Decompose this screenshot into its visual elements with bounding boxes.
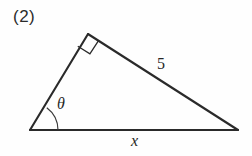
angle-label-theta: θ (57, 96, 65, 112)
triangle-side-left-leg (30, 34, 88, 130)
side-label-hypotenuse: 5 (157, 56, 165, 72)
side-label-base: x (131, 133, 138, 149)
triangle-diagram (0, 0, 252, 156)
figure-canvas: (2) θ 5 x (0, 0, 252, 156)
triangle-side-hypotenuse (88, 34, 238, 130)
right-angle-marker (78, 41, 98, 54)
